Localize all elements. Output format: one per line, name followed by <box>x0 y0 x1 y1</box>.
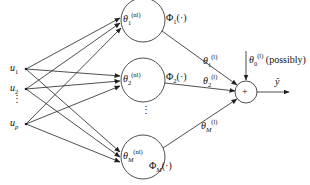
theta-superscript: (l) <box>211 53 217 60</box>
theta-subscript: 1 <box>128 19 131 26</box>
activation-label-M: ΦM(·) <box>149 161 172 171</box>
theta-subscript: 1 <box>208 61 211 68</box>
theta-subscript: 2 <box>208 81 211 88</box>
theta-subscript: M <box>128 156 133 163</box>
phi-argument: (·) <box>177 71 187 82</box>
input-node-p <box>25 123 28 126</box>
bias-note: (possibly) <box>266 54 306 65</box>
hidden-node-1-label: θ1(nl) <box>123 14 141 24</box>
output-weight-label-M: θM(l) <box>201 121 217 131</box>
hidden-ellipsis: ⋮ <box>141 108 151 112</box>
hidden-node-2-label: θ2(nl) <box>123 74 141 84</box>
hidden-node-M-label: θM(nl) <box>123 151 143 161</box>
bias-label: θ0(l) (possibly) <box>249 55 306 65</box>
input-subscript: 1 <box>15 68 18 75</box>
theta-superscript: (nl) <box>131 11 140 18</box>
input-subscript: p <box>15 123 18 130</box>
output-label: ŷ <box>275 77 279 87</box>
edge-hidden-2-to-sum <box>165 83 235 91</box>
input-ellipsis: ⋮ <box>12 97 22 101</box>
theta-subscript: 2 <box>128 79 131 86</box>
input-node-2 <box>25 88 28 91</box>
output-weight-label-1: θ1(l) <box>203 56 217 66</box>
input-label-2: u2 <box>10 83 18 93</box>
theta-superscript: (l) <box>257 52 263 59</box>
activation-label-2: Φ2(·) <box>166 72 187 82</box>
edge-hidden-M-to-sum <box>163 99 237 148</box>
phi-subscript: 2 <box>173 77 176 84</box>
theta-superscript: (nl) <box>133 148 142 155</box>
phi-subscript: M <box>156 166 161 173</box>
input-label-p: up <box>10 118 18 128</box>
theta-superscript: (l) <box>211 118 217 125</box>
input-label-1: u1 <box>10 63 18 73</box>
edges-to-hidden-2 <box>26 69 120 124</box>
network-diagram-canvas <box>0 0 310 185</box>
theta-superscript: (nl) <box>131 71 140 78</box>
sum-symbol: + <box>242 87 248 97</box>
edges-to-hidden-M <box>26 69 120 162</box>
input-node-1 <box>25 68 28 71</box>
theta-subscript: 0 <box>254 60 257 67</box>
phi-subscript: 1 <box>173 18 176 25</box>
edges-to-hidden-1 <box>26 18 121 124</box>
output-weight-label-2: θ2(l) <box>203 76 217 86</box>
theta-superscript: (l) <box>211 73 217 80</box>
activation-label-1: Φ1(·) <box>166 13 187 23</box>
phi-argument: (·) <box>162 160 172 171</box>
phi-argument: (·) <box>177 12 187 23</box>
theta-subscript: M <box>206 126 211 133</box>
